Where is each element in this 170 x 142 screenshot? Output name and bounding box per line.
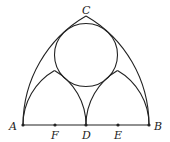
arc-left-arch-right [55, 70, 87, 125]
label-e: E [113, 129, 122, 142]
point-a [21, 123, 24, 126]
arc-left-arch-left [23, 70, 55, 125]
point-b [147, 123, 150, 126]
arc-right-arch-right [118, 70, 150, 125]
label-d: D [81, 129, 91, 142]
label-b: B [153, 120, 162, 133]
point-f [53, 123, 56, 126]
inscribed-circle [55, 24, 118, 87]
arc-right-arch-left [86, 70, 118, 125]
point-e [116, 123, 119, 126]
geometry-diagram: A F D E B C [0, 0, 170, 142]
point-d [84, 123, 87, 126]
label-c: C [82, 4, 91, 17]
label-f: F [50, 129, 59, 142]
label-a: A [8, 120, 17, 133]
